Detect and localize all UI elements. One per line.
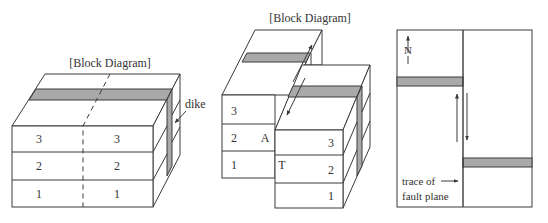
middle-block-diagram — [222, 30, 370, 208]
middle-layer-label: 1 — [328, 189, 334, 203]
left-layer-label: 3 — [36, 132, 42, 146]
middle-front-block-dike-top — [288, 86, 362, 97]
left-layer-label: 2 — [36, 159, 42, 173]
left-layer-label: 1 — [114, 187, 120, 201]
north-label: N — [404, 44, 412, 56]
left-panel-title: [Block Diagram] — [69, 56, 151, 70]
fault-diagram-figure: [Block Diagram] 3 2 1 3 2 1 dike [Block … — [0, 0, 548, 223]
left-block-dike-side — [167, 89, 172, 176]
middle-layer-label: 2 — [231, 131, 237, 145]
left-layer-label: 1 — [36, 187, 42, 201]
point-a-label: A — [261, 131, 270, 145]
diagram-svg: [Block Diagram] 3 2 1 3 2 1 dike [Block … — [0, 0, 548, 223]
trace-label-line1: trace of — [402, 175, 436, 187]
middle-panel-title: [Block Diagram] — [269, 11, 351, 25]
middle-layer-label: 2 — [328, 163, 334, 177]
middle-layer-label: 3 — [328, 136, 334, 150]
map-dike-west — [397, 77, 463, 86]
point-t-label: T — [278, 158, 286, 172]
middle-front-block-dike-side — [357, 86, 362, 176]
left-layer-label: 2 — [114, 159, 120, 173]
middle-layer-label: 3 — [231, 104, 237, 118]
left-block-dike-top — [29, 89, 172, 100]
trace-label-line2: fault plane — [402, 190, 449, 202]
middle-layer-label: 1 — [231, 158, 237, 172]
left-layer-label: 3 — [114, 132, 120, 146]
middle-back-block-dike-top — [242, 53, 311, 62]
dike-label: dike — [185, 97, 206, 111]
map-dike-east — [463, 158, 532, 167]
